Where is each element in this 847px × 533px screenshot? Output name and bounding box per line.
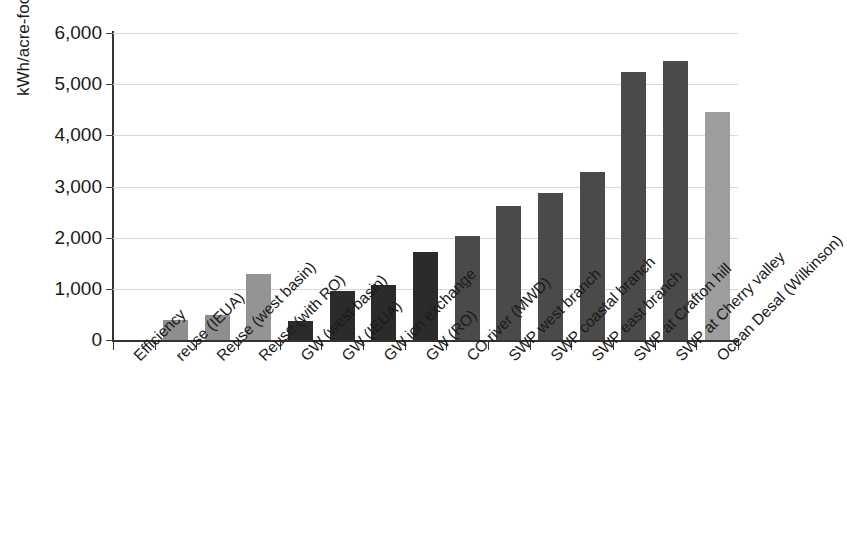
y-tick-mark bbox=[106, 135, 113, 136]
y-tick-mark bbox=[106, 289, 113, 290]
y-tick-mark bbox=[106, 33, 113, 34]
y-tick-mark bbox=[106, 84, 113, 85]
y-tick-label: 2,000 bbox=[54, 227, 102, 249]
y-tick-label: 6,000 bbox=[54, 22, 102, 44]
y-axis-title-text: kWh/acre-foot bbox=[14, 0, 34, 96]
y-tick-mark bbox=[106, 187, 113, 188]
y-tick-label: 0 bbox=[91, 329, 102, 351]
y-tick-mark bbox=[106, 238, 113, 239]
y-tick-mark bbox=[106, 340, 113, 341]
x-tick-mark bbox=[113, 341, 114, 350]
y-tick-label: 4,000 bbox=[54, 124, 102, 146]
y-tick-label: 1,000 bbox=[54, 278, 102, 300]
y-axis-title: kWh/acre-foot bbox=[14, 0, 34, 96]
y-tick-label: 5,000 bbox=[54, 73, 102, 95]
y-tick-label: 3,000 bbox=[54, 176, 102, 198]
